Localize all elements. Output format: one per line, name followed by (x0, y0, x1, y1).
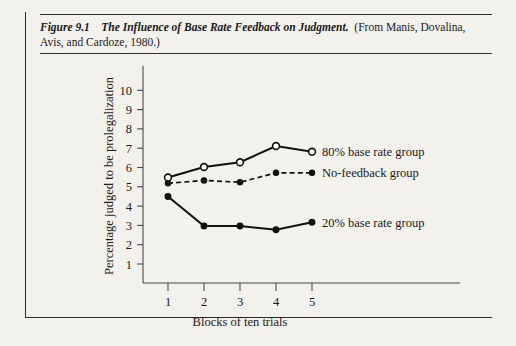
x-tick-3: 3 (237, 295, 243, 309)
x-axis-ticks (168, 283, 312, 291)
y-tick-1: 1 (126, 258, 132, 272)
x-tick-2: 2 (201, 295, 207, 309)
legend-label-no-feedback: No-feedback group (322, 166, 419, 180)
figure-caption: Figure 9.1 The Influence of Base Rate Fe… (40, 15, 490, 53)
legend-item-no-feedback: No-feedback group (322, 166, 419, 180)
y-tick-5: 5 (126, 180, 132, 194)
y-tick-9: 9 (126, 103, 132, 117)
y-tick-4: 4 (126, 200, 133, 214)
figure-caption-block: Figure 9.1 The Influence of Base Rate Fe… (40, 14, 492, 54)
caption-rule-bottom (40, 53, 492, 54)
legend-item-20-percent: 20% base rate group (322, 216, 424, 230)
chart-plot-area: 1 2 3 4 5 6 7 8 9 10 1 2 3 4 5 Blocks of… (0, 58, 516, 328)
legend-item-80-percent: 80% base rate group (322, 145, 424, 159)
y-tick-10: 10 (120, 84, 133, 98)
x-tick-1: 1 (165, 295, 171, 309)
y-axis-title: Percentage judged to be prolegalization (102, 76, 116, 275)
y-axis-tick-labels: 1 2 3 4 5 6 7 8 9 10 (120, 84, 133, 272)
y-axis-ticks (137, 90, 143, 264)
y-tick-3: 3 (126, 219, 132, 233)
y-tick-7: 7 (126, 142, 132, 156)
y-tick-2: 2 (126, 238, 132, 252)
legend-label-20-percent: 20% base rate group (322, 216, 424, 230)
y-tick-8: 8 (126, 122, 132, 136)
x-axis-tick-labels: 1 2 3 4 5 (165, 295, 315, 309)
line-chart: 1 2 3 4 5 6 7 8 9 10 1 2 3 4 5 Blocks of… (0, 58, 516, 328)
y-tick-6: 6 (126, 161, 132, 175)
x-tick-5: 5 (309, 295, 315, 309)
legend-label-80-percent: 80% base rate group (322, 145, 424, 159)
x-tick-4: 4 (273, 295, 280, 309)
figure-number: Figure 9.1 (40, 21, 90, 33)
x-axis-title: Blocks of ten trials (193, 315, 288, 328)
figure-title: The Influence of Base Rate Feedback on J… (101, 21, 348, 33)
